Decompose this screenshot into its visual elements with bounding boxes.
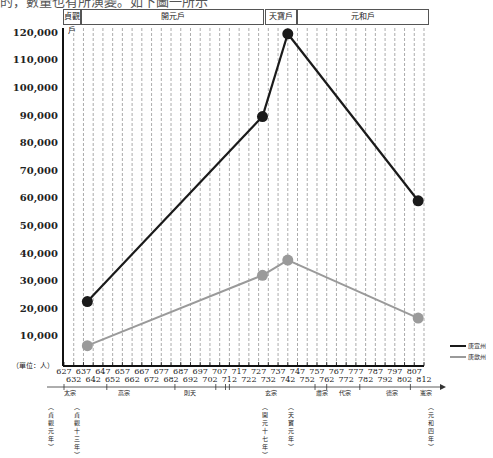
legend-item-shezhou: 唐歙州 <box>450 352 486 361</box>
legend-swatch <box>450 356 466 358</box>
legend-item-xuanzhou: 唐宣州 <box>450 341 486 350</box>
legend-swatch <box>450 345 466 347</box>
